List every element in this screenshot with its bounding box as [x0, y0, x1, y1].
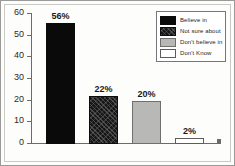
legend-item-not-sure-about[interactable]: Not sure about [160, 26, 222, 36]
y-axis-label-0: 0 [19, 137, 24, 148]
legend-swatch-icon-believe-in [160, 16, 176, 25]
legend-swatch-icon-dont-believe-in [160, 38, 176, 47]
bar-believe-in[interactable] [46, 23, 75, 144]
bar-chart-figure: 60 50 40 30 20 10 0 56% 22% [0, 0, 235, 166]
bar-value-label-dont-know: 2% [175, 126, 204, 136]
y-axis-label-30: 30 [14, 72, 24, 83]
bar-dont-know[interactable] [175, 138, 204, 144]
legend-label-dont-believe-in: Don't believe in [180, 38, 222, 46]
chart-legend: Believe in Not sure about Don't believe … [156, 11, 226, 62]
legend-label-believe-in: Believe in [180, 16, 207, 24]
bar-not-sure-about[interactable] [89, 96, 118, 144]
legend-label-dont-know: Don't Know [180, 49, 212, 57]
bar-slot-believe-in: 56% [46, 13, 75, 144]
legend-item-dont-know[interactable]: Don't Know [160, 48, 222, 58]
y-axis-label-60: 60 [14, 7, 24, 18]
legend-item-believe-in[interactable]: Believe in [160, 15, 222, 25]
bar-value-label-believe-in: 56% [46, 11, 75, 21]
y-axis-label-40: 40 [14, 50, 24, 61]
legend-item-dont-believe-in[interactable]: Don't believe in [160, 37, 222, 47]
bar-slot-not-sure-about: 22% [89, 13, 118, 144]
y-axis-label-20: 20 [14, 94, 24, 105]
y-axis-label-50: 50 [14, 29, 24, 40]
legend-label-not-sure-about: Not sure about [180, 27, 221, 35]
bar-value-label-dont-believe-in: 20% [132, 89, 161, 99]
legend-swatch-icon-not-sure-about [160, 27, 176, 36]
bar-value-label-not-sure-about: 22% [89, 84, 118, 94]
bar-dont-believe-in[interactable] [132, 101, 161, 144]
legend-swatch-icon-dont-know [160, 49, 176, 58]
y-axis-label-10: 10 [14, 115, 24, 126]
